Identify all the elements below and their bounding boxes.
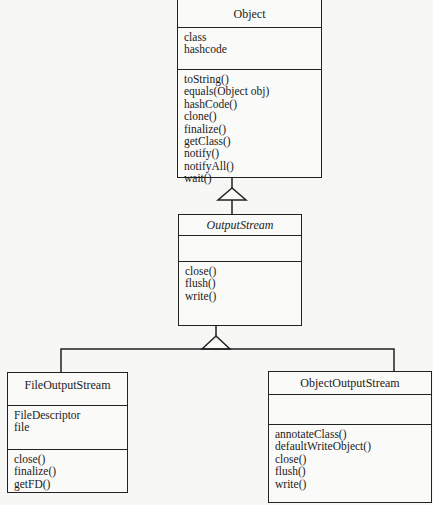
class-box-object[interactable]: Object class hashcode toString() equals(… [177,0,322,178]
method: flush() [185,277,301,289]
attribute: FileDescriptor [14,409,127,421]
method: finalize() [14,465,127,477]
method: annotateClass() [275,428,431,440]
class-box-object-output-stream[interactable]: ObjectOutputStream annotateClass() defau… [268,371,432,503]
attribute: class [184,31,321,43]
method: notify() [184,147,321,159]
class-name: Object [178,0,321,27]
attributes-section: FileDescriptor file [8,405,127,449]
attribute: hashcode [184,43,321,55]
class-box-file-output-stream[interactable]: FileOutputStream FileDescriptor file clo… [7,372,128,493]
method: toString() [184,73,321,85]
method: close() [14,453,127,465]
method: wait() [184,172,321,184]
method: close() [185,265,301,277]
attributes-section [179,235,301,261]
class-name: OutputStream [179,215,301,235]
method: flush() [275,465,431,477]
method: equals(Object obj) [184,85,321,97]
attributes-section [269,394,431,424]
method: write() [185,290,301,302]
generalization-triangle-icon [202,336,230,349]
generalization-triangle-icon [218,188,246,200]
attributes-section: class hashcode [178,27,321,69]
connector-line [61,349,394,372]
method: close() [275,453,431,465]
method: write() [275,478,431,490]
method: finalize() [184,123,321,135]
method: hashCode() [184,98,321,110]
method: notifyAll() [184,160,321,172]
method: getClass() [184,135,321,147]
method: getFD() [14,478,127,490]
methods-section: close() finalize() getFD() [8,449,127,492]
methods-section: toString() equals(Object obj) hashCode()… [178,69,321,177]
class-name: ObjectOutputStream [269,372,431,394]
class-box-output-stream[interactable]: OutputStream close() flush() write() [178,214,302,326]
method: defaultWriteObject() [275,440,431,452]
methods-section: close() flush() write() [179,261,301,325]
attribute: file [14,421,127,433]
method: clone() [184,110,321,122]
methods-section: annotateClass() defaultWriteObject() clo… [269,424,431,502]
class-name: FileOutputStream [8,373,127,405]
